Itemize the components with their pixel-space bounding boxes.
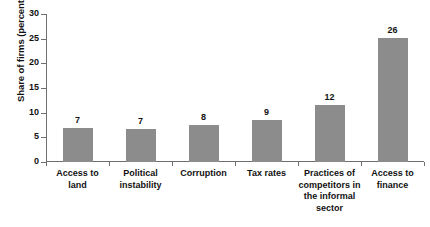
bar[interactable] [126, 129, 156, 162]
x-tick-mark [424, 162, 425, 166]
x-tick-mark [235, 162, 236, 166]
bars-layer: 77891226 [46, 14, 424, 162]
x-axis-category-label: Practices ofcompetitors inthe informalse… [298, 168, 361, 214]
bar[interactable] [63, 128, 93, 162]
bar[interactable] [189, 125, 219, 162]
bar-chart: Share of firms (percent) 051015202530 77… [0, 0, 430, 227]
x-axis-category-line: competitors in [298, 180, 361, 192]
bar[interactable] [252, 120, 282, 162]
bar-group[interactable]: 7 [109, 14, 172, 162]
bar-value-label: 7 [138, 116, 143, 126]
bar-group[interactable]: 7 [46, 14, 109, 162]
x-tick-mark [46, 162, 47, 166]
x-axis-category-label: Corruption [172, 168, 235, 180]
y-tick-label: 20 [29, 57, 39, 67]
x-axis-category-line: the informal [298, 191, 361, 203]
bar-value-label: 9 [264, 107, 269, 117]
bar-value-label: 12 [324, 92, 334, 102]
x-axis-category-label: Politicalinstability [109, 168, 172, 191]
x-axis-category-label: Access tofinance [361, 168, 424, 191]
bar-group[interactable]: 8 [172, 14, 235, 162]
x-tick-mark [361, 162, 362, 166]
y-tick-label: 15 [29, 82, 39, 92]
y-tick-label: 30 [29, 8, 39, 18]
x-tick-mark [298, 162, 299, 166]
y-tick-label: 25 [29, 33, 39, 43]
x-axis-category-line: Corruption [172, 168, 235, 180]
x-axis-category-line: sector [298, 203, 361, 215]
x-tick-mark [109, 162, 110, 166]
bar-value-label: 26 [387, 25, 397, 35]
bar-value-label: 8 [201, 112, 206, 122]
x-axis-category-line: instability [109, 180, 172, 192]
x-axis-category-label: Tax rates [235, 168, 298, 180]
x-axis-category-line: Tax rates [235, 168, 298, 180]
y-axis-title: Share of firms (percent) [15, 0, 26, 125]
x-axis-category-line: Political [109, 168, 172, 180]
x-axis-category-line: Practices of [298, 168, 361, 180]
y-tick-label: 5 [34, 131, 39, 141]
x-axis-category-line: land [46, 180, 109, 192]
x-axis-category-line: Access to [46, 168, 109, 180]
bar-group[interactable]: 26 [361, 14, 424, 162]
x-axis-category-line: finance [361, 180, 424, 192]
y-tick-label: 10 [29, 107, 39, 117]
bar[interactable] [378, 38, 408, 162]
bar-group[interactable]: 9 [235, 14, 298, 162]
x-axis-labels: Access tolandPoliticalinstabilityCorrupt… [46, 168, 424, 224]
plot-area: 051015202530 77891226 [46, 14, 424, 162]
bar-value-label: 7 [75, 115, 80, 125]
x-tick-mark [172, 162, 173, 166]
x-axis-category-line: Access to [361, 168, 424, 180]
bar[interactable] [315, 105, 345, 162]
x-axis-category-label: Access toland [46, 168, 109, 191]
bar-group[interactable]: 12 [298, 14, 361, 162]
y-tick-label: 0 [34, 156, 39, 166]
